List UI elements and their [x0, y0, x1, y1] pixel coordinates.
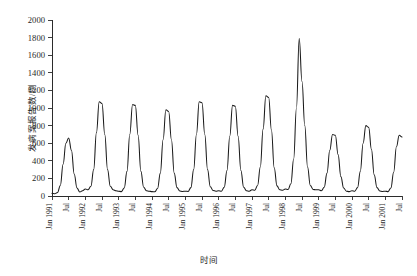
svg-text:Jan 1999: Jan 1999	[312, 203, 321, 230]
svg-text:Jan 1995: Jan 1995	[178, 203, 187, 230]
svg-text:Jul: Jul	[228, 203, 237, 212]
svg-text:Jul: Jul	[362, 203, 371, 212]
svg-text:Jan 2000: Jan 2000	[345, 203, 354, 230]
svg-text:Jul: Jul	[395, 203, 404, 212]
svg-text:Jan 1998: Jan 1998	[278, 203, 287, 230]
svg-text:2000: 2000	[28, 15, 45, 25]
svg-text:Jan 2001: Jan 2001	[378, 203, 387, 230]
svg-text:Jul: Jul	[162, 203, 171, 212]
svg-text:Jul: Jul	[62, 203, 71, 212]
svg-text:Jan 1996: Jan 1996	[212, 203, 221, 230]
line-chart-plot: 0200400600800100012001400160018002000 Ja…	[0, 0, 417, 250]
svg-text:Jan 1991: Jan 1991	[45, 203, 54, 230]
x-axis-title: 时间	[0, 253, 417, 265]
svg-text:Jul: Jul	[295, 203, 304, 212]
svg-text:Jul: Jul	[262, 203, 271, 212]
chart-container: 发病案报告数/例 0200400600800100012001400160018…	[0, 0, 417, 276]
y-axis-title: 发病案报告数/例	[25, 43, 37, 193]
x-axis-ticks: Jan 1991JulJan 1992JulJan 1993JulJan 199…	[45, 196, 404, 229]
svg-text:0: 0	[41, 191, 45, 201]
svg-text:Jan 1992: Jan 1992	[78, 203, 87, 230]
svg-text:Jul: Jul	[128, 203, 137, 212]
svg-text:Jul: Jul	[95, 203, 104, 212]
svg-text:1800: 1800	[28, 33, 45, 43]
svg-text:Jul: Jul	[195, 203, 204, 212]
case-count-series	[52, 38, 402, 193]
svg-text:Jan 1994: Jan 1994	[145, 203, 154, 230]
svg-text:Jul: Jul	[328, 203, 337, 212]
svg-text:Jan 1993: Jan 1993	[112, 203, 121, 230]
svg-text:Jan 1997: Jan 1997	[245, 203, 254, 230]
